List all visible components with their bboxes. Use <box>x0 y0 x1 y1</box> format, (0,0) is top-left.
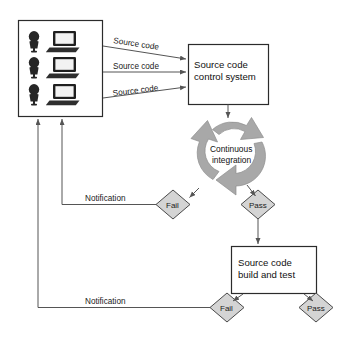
notification-edge-1: Notification <box>62 119 156 205</box>
edge-label-source-code-2: Source code <box>113 62 159 71</box>
edge-label-notification-1: Notification <box>85 194 126 203</box>
diagram-canvas: Source code Source code Source code Sour… <box>0 0 353 337</box>
cycle-arrow-top <box>213 118 264 140</box>
scm-label-line1: Source code <box>194 59 248 70</box>
edge-notification-1 <box>62 119 156 205</box>
edge-cycle-to-ci-fail <box>190 188 200 198</box>
edge-label-notification-2: Notification <box>85 297 126 306</box>
build-pass-node: Pass <box>299 293 333 322</box>
developer-box <box>19 21 103 117</box>
edge-label-source-code-1: Source code <box>113 36 160 52</box>
continuous-integration-cycle: Continuous integration <box>191 118 265 196</box>
build-label-line1: Source code <box>238 257 292 268</box>
ci-pass-node: Pass <box>241 190 275 219</box>
source-code-build-and-test-node: Source code build and test <box>232 247 317 294</box>
build-pass-label: Pass <box>307 304 325 313</box>
edge-notification-2 <box>38 119 210 308</box>
notification-edge-2: Notification <box>38 119 210 308</box>
build-fail-label: Fail <box>220 304 233 313</box>
ci-fail-node: Fail <box>156 190 190 219</box>
cycle-label-line1: Continuous <box>210 144 252 154</box>
continuous-integration-diagram: Source code Source code Source code Sour… <box>0 0 353 337</box>
ci-fail-label: Fail <box>166 201 179 210</box>
source-code-edges: Source code Source code Source code <box>103 36 186 98</box>
ci-pass-label: Pass <box>249 201 267 210</box>
source-code-control-system-node: Source code control system <box>189 45 269 105</box>
scm-label-line2: control system <box>194 71 256 82</box>
edge-label-source-code-3: Source code <box>112 83 159 98</box>
edge-cycle-to-ci-pass <box>247 185 256 196</box>
cycle-label-line2: integration <box>212 155 251 165</box>
build-label-line2: build and test <box>238 269 295 280</box>
edge-build-to-fail <box>233 294 243 301</box>
